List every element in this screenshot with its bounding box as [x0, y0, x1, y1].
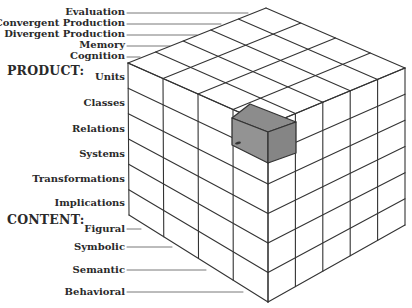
product-label-systems: Systems [79, 148, 125, 159]
content-label-behavioral: Behavioral [65, 286, 125, 297]
operation-label-divergent-production: Divergent Production [4, 28, 125, 39]
operation-label-cognition: Cognition [70, 50, 125, 61]
content-heading: CONTENT: [7, 212, 85, 227]
product-label-implications: Implications [55, 197, 125, 208]
operation-label-evaluation: Evaluation [65, 6, 125, 17]
content-label-semantic: Semantic [73, 264, 125, 275]
product-label-relations: Relations [72, 123, 125, 134]
product-heading: PRODUCT: [7, 63, 84, 78]
product-label-classes: Classes [84, 97, 126, 108]
operation-label-memory: Memory [79, 39, 125, 50]
product-label-units: Units [95, 71, 125, 82]
operation-label-convergent-production: Convergent Production [0, 17, 125, 28]
content-label-figural: Figural [84, 223, 125, 234]
product-label-transformations: Transformations [32, 173, 125, 184]
structure-of-intellect-cube [0, 0, 412, 308]
content-label-symbolic: Symbolic [74, 241, 125, 252]
